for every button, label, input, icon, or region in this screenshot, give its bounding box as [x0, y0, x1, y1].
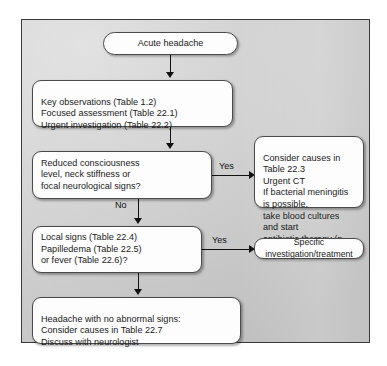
- node-outcome-specific-treatment-label: Specific investigation/treatment: [265, 237, 353, 260]
- connector-decision2-yes: [202, 249, 251, 251]
- branch-label-no-1: No: [115, 200, 127, 210]
- branch-label-yes-2: Yes: [212, 235, 227, 245]
- node-assessment: Key observations (Table 1.2) Focused ass…: [32, 80, 233, 127]
- connector-decision1-yes: [212, 175, 251, 177]
- screenshot-canvas: Acute headache Key observations (Table 1…: [0, 0, 387, 366]
- arrowhead-assessment-to-decision1: [166, 143, 174, 149]
- branch-label-yes-1: Yes: [219, 161, 234, 171]
- arrowhead-decision2-to-final: [134, 289, 142, 295]
- node-final-no-abnormal-signs: Headache with no abnormal signs: Conside…: [32, 297, 241, 344]
- node-outcome-specific-treatment: Specific investigation/treatment: [254, 238, 364, 259]
- node-assessment-text: Key observations (Table 1.2) Focused ass…: [41, 97, 177, 130]
- arrowhead-start-to-assessment: [166, 72, 174, 78]
- node-decision-neuro-text: Reduced consciousness level, neck stiffn…: [41, 158, 204, 193]
- arrowhead-decision1-no: [134, 218, 142, 224]
- flowchart-panel: Acute headache Key observations (Table 1…: [21, 19, 370, 343]
- node-final-no-abnormal-signs-text: Headache with no abnormal signs: Conside…: [41, 314, 181, 347]
- node-decision-local-signs-text: Local signs (Table 22.4) Papilledema (Ta…: [41, 232, 194, 267]
- node-start-label: Acute headache: [138, 38, 204, 50]
- node-decision-neuro: Reduced consciousness level, neck stiffn…: [32, 151, 212, 199]
- node-outcome-urgent-ct: Consider causes in Table 22.3 Urgent CT …: [254, 136, 364, 208]
- node-start: Acute headache: [103, 32, 238, 55]
- node-decision-local-signs: Local signs (Table 22.4) Papilledema (Ta…: [32, 226, 202, 273]
